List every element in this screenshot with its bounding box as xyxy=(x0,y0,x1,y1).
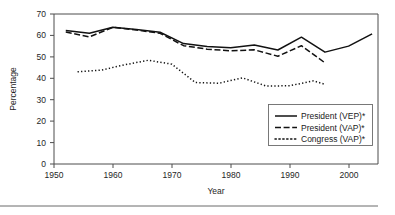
x-tick-label: 2000 xyxy=(340,170,359,180)
y-tick-label: 10 xyxy=(37,138,47,148)
x-tick-label: 1960 xyxy=(104,170,123,180)
x-tick-labels: 1950 1960 1970 1980 1990 2000 xyxy=(45,170,359,180)
y-tick-label: 60 xyxy=(37,30,47,40)
y-tick-marks xyxy=(50,14,54,164)
legend-label-president-vep: President (VEP)* xyxy=(301,111,366,121)
legend-label-president-vap: President (VAP)* xyxy=(301,123,365,133)
legend-label-congress-vap: Congress (VAP)* xyxy=(301,134,366,144)
voter-turnout-line-chart: 0 10 20 30 40 50 60 70 1950 1960 1970 19… xyxy=(0,0,395,215)
x-tick-label: 1950 xyxy=(45,170,64,180)
legend: President (VEP)* President (VAP)* Congre… xyxy=(269,105,373,146)
y-axis-title: Percentage xyxy=(8,67,18,111)
y-tick-label: 30 xyxy=(37,95,47,105)
y-tick-label: 40 xyxy=(37,73,47,83)
y-tick-labels: 0 10 20 30 40 50 60 70 xyxy=(37,9,47,169)
x-tick-label: 1990 xyxy=(281,170,300,180)
x-tick-label: 1980 xyxy=(222,170,241,180)
x-tick-label: 1970 xyxy=(163,170,182,180)
y-tick-label: 0 xyxy=(41,159,46,169)
y-tick-label: 20 xyxy=(37,116,47,126)
series-congress-vap xyxy=(78,60,325,86)
x-axis-title: Year xyxy=(207,186,224,196)
y-tick-label: 70 xyxy=(37,9,47,19)
series-group xyxy=(66,27,372,86)
y-tick-label: 50 xyxy=(37,52,47,62)
series-president-vep xyxy=(66,27,372,52)
x-tick-marks xyxy=(54,164,349,168)
figure-container: 0 10 20 30 40 50 60 70 1950 1960 1970 19… xyxy=(0,0,395,215)
